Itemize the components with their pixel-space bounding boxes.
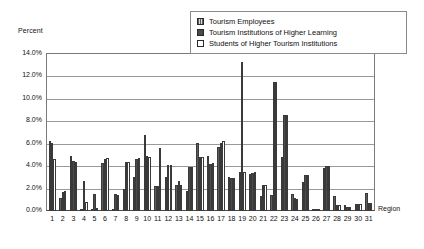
chart-legend: Tourism EmployeesTourism Institutions of… (190, 11, 407, 54)
y-axis-tick-label: 10.0% (8, 94, 42, 101)
bar (64, 191, 66, 211)
bar-group (68, 54, 79, 211)
bar (127, 162, 129, 211)
bar (148, 157, 150, 211)
y-axis-tick-label: 4.0% (8, 161, 42, 168)
bar (359, 204, 361, 211)
bar-group (237, 54, 248, 211)
bar (96, 208, 98, 211)
legend-swatch-dark (197, 29, 204, 36)
bar (296, 199, 298, 211)
bar-group (332, 54, 343, 211)
bar (243, 172, 245, 211)
y-axis-tick-label: 6.0% (8, 139, 42, 146)
bar (85, 202, 87, 211)
x-axis-title: Region (378, 205, 400, 212)
bar-group (258, 54, 269, 211)
bar-group (226, 54, 237, 211)
bars-layer (47, 54, 374, 211)
bar-group (290, 54, 301, 211)
bar (370, 203, 372, 211)
bar (138, 158, 140, 211)
bar-group (216, 54, 227, 211)
bar (75, 162, 77, 211)
bar-group (47, 54, 58, 211)
bar-group (353, 54, 364, 211)
bar (275, 82, 277, 211)
bar-group (142, 54, 153, 211)
bar (286, 115, 288, 211)
bar-group (100, 54, 111, 211)
y-axis-tick-label: 14.0% (8, 49, 42, 56)
legend-swatch-hatched (197, 18, 204, 25)
y-axis-title: Percent (18, 27, 43, 34)
legend-item: Students of Higher Tourism Institutions (197, 38, 400, 49)
bar-group (195, 54, 206, 211)
bar-group (247, 54, 258, 211)
bar-group (321, 54, 332, 211)
bar (53, 159, 55, 211)
bar (212, 163, 214, 211)
bar (117, 195, 119, 211)
y-axis-tick-label: 12.0% (8, 71, 42, 78)
legend-item-label: Students of Higher Tourism Institutions (209, 39, 337, 49)
bar (338, 205, 340, 211)
bar-group (300, 54, 311, 211)
bar-group (110, 54, 121, 211)
y-axis-tick-label: 8.0% (8, 116, 42, 123)
y-axis-tick-label: 2.0% (8, 184, 42, 191)
bar-group (163, 54, 174, 211)
bar-group (363, 54, 374, 211)
legend-item: Tourism Employees (197, 16, 400, 27)
legend-swatch-white (197, 40, 204, 47)
bar (307, 175, 309, 211)
bar-group (205, 54, 216, 211)
bar-group (89, 54, 100, 211)
x-axis-tick-labels: 1234567891011121314151617181920212223242… (47, 215, 374, 229)
legend-item-label: Tourism Institutions of Higher Learning (209, 28, 337, 38)
bar (254, 172, 256, 211)
bar-group (279, 54, 290, 211)
bar-group (184, 54, 195, 211)
bar-group (121, 54, 132, 211)
bar (159, 148, 161, 211)
bar-group (152, 54, 163, 211)
bar-chart: Percent 14.0%12.0%10.0%8.0%6.0%4.0%2.0%0… (0, 0, 424, 249)
bar (233, 178, 235, 211)
bar-group (311, 54, 322, 211)
bar (317, 209, 319, 211)
bar (222, 141, 224, 211)
bar-group (58, 54, 69, 211)
bar-group (269, 54, 280, 211)
bar (328, 166, 330, 211)
bar (349, 207, 351, 211)
bar (170, 165, 172, 211)
bar (264, 185, 266, 211)
bar (201, 157, 203, 211)
legend-item-label: Tourism Employees (209, 17, 274, 27)
bar-group (342, 54, 353, 211)
bar-group (79, 54, 90, 211)
y-axis-tick-label: 0.0% (8, 206, 42, 213)
bar-group (131, 54, 142, 211)
x-axis-tick-label: 31 (363, 215, 375, 222)
bar-group (174, 54, 185, 211)
bar (180, 185, 182, 211)
bar (191, 167, 193, 211)
legend-item: Tourism Institutions of Higher Learning (197, 27, 400, 38)
bar (106, 158, 108, 211)
